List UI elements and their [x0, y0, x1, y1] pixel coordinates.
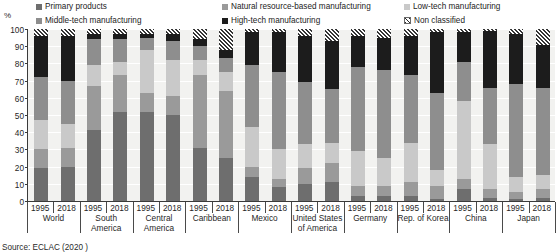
- bar-segment: [536, 175, 550, 189]
- bar: [298, 29, 312, 201]
- bar-segment: [219, 50, 233, 59]
- bar-segment: [219, 91, 233, 158]
- bar-segment: [377, 70, 391, 158]
- y-tickmark: [25, 29, 28, 30]
- bar-segment: [272, 32, 286, 72]
- bar-segment: [193, 148, 207, 201]
- bar-segment: [34, 120, 48, 149]
- bar-segment: [430, 32, 444, 92]
- y-tickmark: [25, 184, 28, 185]
- bar-segment: [113, 112, 127, 201]
- x-year-label: 2018: [476, 203, 502, 213]
- gridline: [28, 149, 555, 150]
- x-group-label: Germany: [344, 214, 397, 224]
- bar-segment: [457, 189, 471, 201]
- bar-segment: [193, 75, 207, 147]
- bar-segment: [351, 29, 365, 36]
- x-year-label: 2018: [529, 203, 555, 213]
- bar-segment: [219, 158, 233, 201]
- y-tickmark: [25, 132, 28, 133]
- bar-segment: [536, 189, 550, 198]
- bar-segment: [536, 29, 550, 44]
- x-group-label: World: [27, 214, 80, 224]
- bar-segment: [166, 96, 180, 115]
- bar-segment: [166, 34, 180, 41]
- x-year-label: 1995: [291, 203, 317, 213]
- y-tickmark: [25, 98, 28, 99]
- y-tick-label: 70: [2, 76, 24, 86]
- bar-segment: [404, 29, 418, 36]
- bar-segment: [245, 32, 259, 65]
- x-group-label: United States of America: [291, 214, 344, 233]
- bar-segment: [34, 77, 48, 120]
- x-group-label: South America: [80, 214, 133, 233]
- bar-segment: [140, 50, 154, 93]
- x-group-label: Central America: [133, 214, 186, 233]
- x-year-label: 1995: [133, 203, 159, 213]
- bar-segment: [166, 115, 180, 201]
- bar-segment: [245, 167, 259, 177]
- bar-segment: [430, 93, 444, 170]
- bar-segment: [61, 167, 75, 201]
- bar-segment: [298, 36, 312, 82]
- bar: [483, 29, 497, 201]
- bar-segment: [509, 177, 523, 192]
- bar: [272, 29, 286, 201]
- bar: [34, 29, 48, 201]
- bar: [113, 29, 127, 201]
- bar-segment: [430, 170, 444, 185]
- bar-segment: [457, 32, 471, 61]
- x-year-label: 1995: [502, 203, 528, 213]
- y-axis-tick-labels: 1009080706050403020100: [0, 0, 24, 252]
- bar-segment: [87, 65, 101, 86]
- y-tick-label: 10: [2, 179, 24, 189]
- bar-segment: [298, 144, 312, 168]
- y-tickmark: [25, 167, 28, 168]
- bar: [509, 29, 523, 201]
- bar-segment: [34, 29, 48, 36]
- bar-segment: [325, 163, 339, 182]
- x-year-label: 2018: [159, 203, 185, 213]
- gridline: [28, 98, 555, 99]
- bar-segment: [325, 182, 339, 201]
- bar-segment: [509, 34, 523, 84]
- bar: [536, 29, 550, 201]
- x-year-label: 2018: [53, 203, 79, 213]
- gridline: [28, 184, 555, 185]
- gridline: [28, 81, 555, 82]
- bar-segment: [140, 112, 154, 201]
- x-year-label: 1995: [185, 203, 211, 213]
- bar-segment: [325, 143, 339, 164]
- bar-segment: [272, 179, 286, 188]
- bar: [325, 29, 339, 201]
- x-year-label: 1995: [238, 203, 264, 213]
- bar-segment: [298, 168, 312, 183]
- bar-segment: [87, 39, 101, 65]
- x-year-label: 1995: [27, 203, 53, 213]
- bar-segment: [325, 41, 339, 89]
- bar: [430, 29, 444, 201]
- bar-segment: [193, 60, 207, 75]
- y-tick-label: 80: [2, 59, 24, 69]
- x-year-label: 2018: [212, 203, 238, 213]
- bar-segment: [245, 177, 259, 201]
- bar-segment: [298, 82, 312, 144]
- bar-segment: [61, 36, 75, 81]
- y-tickmark: [25, 46, 28, 47]
- x-year-label: 2018: [106, 203, 132, 213]
- x-group-label: Japan: [502, 214, 555, 224]
- bar-segment: [351, 36, 365, 67]
- plot-canvas: [27, 29, 555, 201]
- y-tick-label: 30: [2, 145, 24, 155]
- bar-segment: [193, 29, 207, 39]
- bar-segment: [166, 60, 180, 96]
- y-tickmark: [25, 149, 28, 150]
- bar-segment: [298, 184, 312, 201]
- bar: [457, 29, 471, 201]
- x-year-label: 2018: [317, 203, 343, 213]
- x-year-label: 2018: [370, 203, 396, 213]
- bar: [166, 29, 180, 201]
- bar-segment: [87, 130, 101, 201]
- bar-segment: [377, 186, 391, 196]
- x-year-label: 2018: [423, 203, 449, 213]
